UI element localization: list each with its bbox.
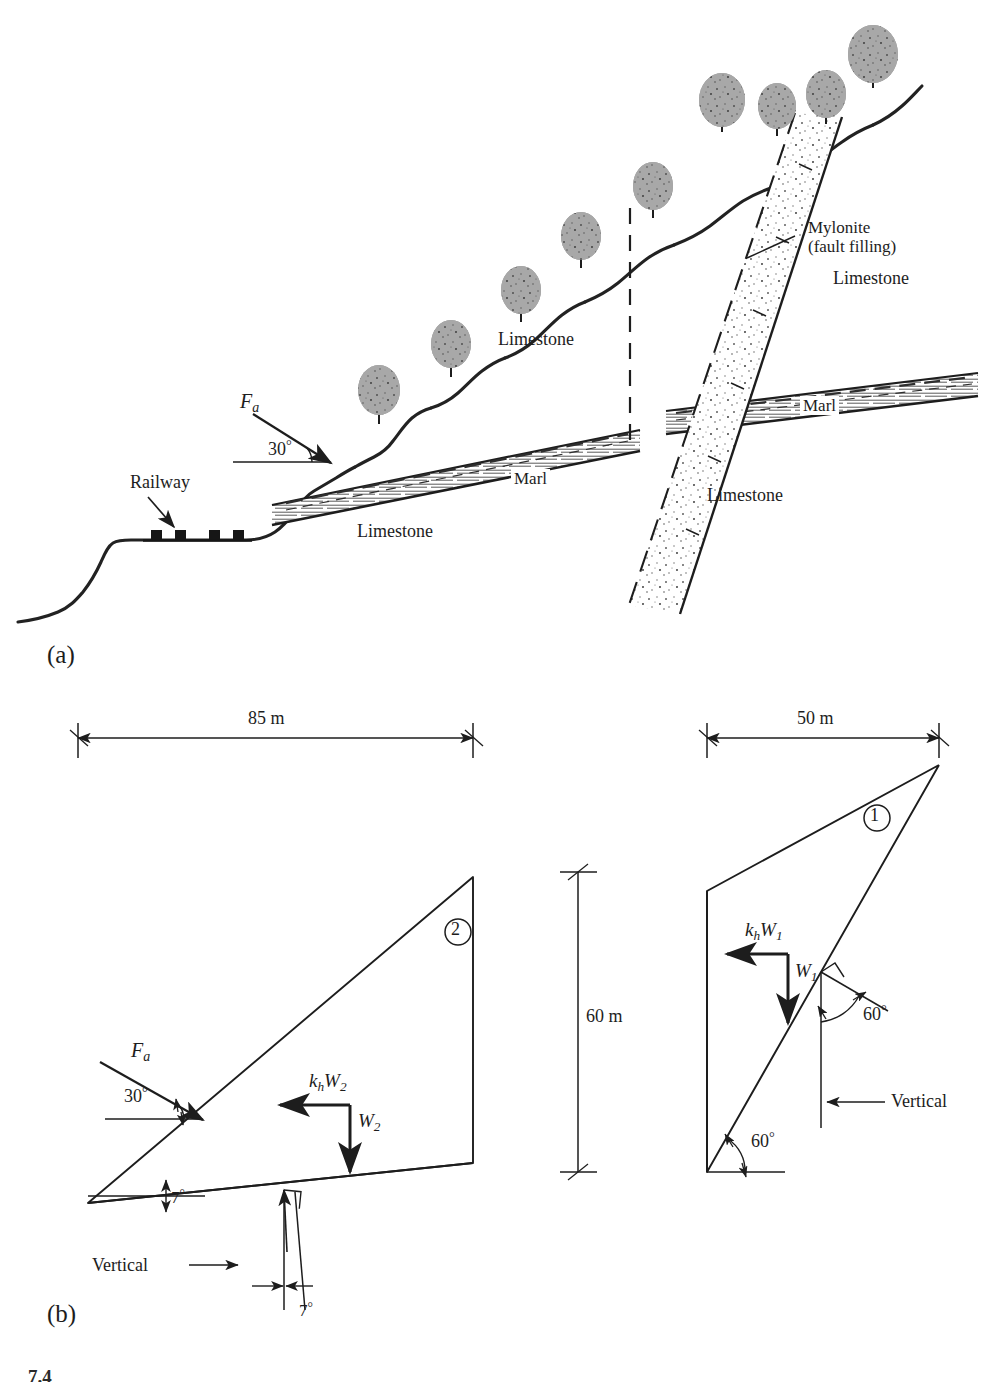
panel-b-label: (b) (47, 1300, 76, 1328)
w-subscript: 2 (374, 1119, 381, 1134)
wedge-1-id-label: 1 (870, 805, 879, 825)
degree-sign: ° (308, 1300, 313, 1315)
marl-label-right: Marl (800, 396, 839, 415)
slope-angle-label-a: 30° (268, 437, 292, 459)
angle-value: 30 (268, 439, 286, 459)
limestone-label-upper: Limestone (498, 329, 574, 349)
angle-value: 7 (299, 1301, 308, 1320)
marl-label-left: Marl (511, 469, 550, 488)
degree-sign: ° (769, 1129, 775, 1145)
vertical-label-wedge1: Vertical (891, 1091, 947, 1111)
normal-and-vertical-wedge1 (818, 963, 888, 1128)
angle-30deg-label-b: 30° (124, 1084, 148, 1106)
angle-60deg-base-label: 60° (751, 1129, 775, 1151)
angle-value: 60 (751, 1131, 769, 1151)
angle-60deg-normal-label: 60° (863, 1002, 887, 1024)
angle-7deg-normal-label: 7° (299, 1300, 313, 1320)
force-symbol: F (131, 1039, 143, 1061)
angle-value: 7 (171, 1188, 180, 1207)
dimension-50m-label: 50 m (797, 708, 834, 728)
normal-and-vertical-wedge2 (189, 1190, 313, 1310)
limestone-label-right-upper: Limestone (833, 268, 909, 288)
w-subscript: 1 (811, 969, 818, 984)
dimension-50m (699, 723, 949, 758)
w-subscript: 2 (340, 1079, 347, 1094)
degree-sign: ° (881, 1002, 887, 1018)
dimension-60m-label: 60 m (586, 1006, 623, 1026)
force-kh-w2-label: khW2 (309, 1070, 347, 1095)
degree-sign: ° (180, 1187, 185, 1202)
force-w2-label: W2 (358, 1110, 380, 1135)
applied-force-label-a: Fa (240, 390, 259, 416)
w-subscript: 1 (776, 928, 783, 943)
force-w1-label: W1 (795, 960, 817, 985)
w-symbol: W (324, 1070, 340, 1091)
figure-caption-cropped: 7.4 (0, 1370, 987, 1382)
figure-root: Railway Fa 30° Limestone Limestone Limes… (0, 0, 987, 1382)
mylonite-label: Mylonite (fault filling) (808, 218, 896, 256)
force-kh-w1-label: khW1 (745, 919, 783, 944)
mylonite-label-line1: Mylonite (808, 218, 870, 237)
applied-force-arrow-b (100, 1062, 203, 1125)
degree-sign: ° (286, 437, 292, 453)
degree-sign: ° (142, 1084, 148, 1100)
dimension-85m-label: 85 m (248, 708, 285, 728)
force-subscript: a (252, 400, 259, 415)
force-subscript: a (143, 1049, 150, 1064)
w-symbol: W (760, 919, 776, 940)
applied-force-label-b: Fa (131, 1039, 150, 1065)
mylonite-label-line2: (fault filling) (808, 237, 896, 256)
angle-value: 60 (863, 1004, 881, 1024)
force-symbol: F (240, 390, 252, 412)
limestone-label-left: Limestone (357, 521, 433, 541)
limestone-label-right-lower: Limestone (707, 485, 783, 505)
w-symbol: W (795, 960, 811, 981)
w-symbol: W (358, 1110, 374, 1131)
angle-7deg-base (88, 1180, 205, 1212)
wedge-2-id-label: 2 (451, 919, 460, 939)
railway-label: Railway (130, 472, 190, 492)
panel-a-label: (a) (47, 641, 75, 669)
panel-b-drawing (0, 0, 987, 1382)
figure-caption-text: 7.4 (28, 1370, 987, 1382)
angle-7deg-base-label: 7° (171, 1187, 185, 1207)
angle-value: 30 (124, 1086, 142, 1106)
vertical-label-wedge2: Vertical (92, 1255, 148, 1275)
angle-60deg-base-wedge1 (725, 1134, 746, 1177)
dimension-85m (70, 723, 483, 758)
